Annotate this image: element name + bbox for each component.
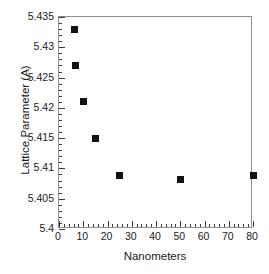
x-axis-minor-tick [243, 224, 244, 227]
x-axis-minor-tick [88, 224, 89, 227]
x-axis-major-tick [253, 221, 254, 227]
y-axis-minor-tick [59, 96, 62, 97]
y-axis-major-tick [59, 47, 65, 48]
x-axis-major-tick [83, 221, 84, 227]
x-axis-minor-tick [166, 224, 167, 227]
x-axis-minor-tick [69, 224, 70, 227]
y-axis-minor-tick [59, 29, 62, 30]
x-axis-minor-tick [171, 224, 172, 227]
y-axis-minor-tick [59, 53, 62, 54]
y-axis-minor-tick [59, 23, 62, 24]
y-axis-minor-tick [59, 144, 62, 145]
x-axis-minor-tick [214, 224, 215, 227]
y-axis-major-tick [59, 168, 65, 169]
x-axis-major-tick [180, 221, 181, 227]
y-axis-minor-tick [59, 217, 62, 218]
data-point-marker [72, 62, 79, 69]
y-axis-minor-tick [59, 35, 62, 36]
x-axis-minor-tick [74, 224, 75, 227]
y-axis-title: Lattice Parameter (A) [19, 40, 31, 200]
y-axis-minor-tick [59, 187, 62, 188]
y-axis-minor-tick [59, 84, 62, 85]
x-axis-minor-tick [219, 224, 220, 227]
plot-area [58, 16, 252, 228]
y-axis-minor-tick [59, 126, 62, 127]
x-axis-minor-tick [122, 224, 123, 227]
y-axis-minor-tick [59, 156, 62, 157]
data-point-marker [71, 26, 78, 33]
y-axis-major-tick [59, 138, 65, 139]
x-axis-minor-tick [127, 224, 128, 227]
x-axis-tick-label: 80 [232, 231, 269, 242]
x-axis-minor-tick [103, 224, 104, 227]
y-axis-minor-tick [59, 211, 62, 212]
data-point-marker [80, 98, 87, 105]
y-axis-minor-tick [59, 150, 62, 151]
x-axis-minor-tick [64, 224, 65, 227]
x-axis-minor-tick [112, 224, 113, 227]
data-point-marker [92, 135, 99, 142]
y-axis-minor-tick [59, 65, 62, 66]
y-axis-major-tick [59, 199, 65, 200]
x-axis-major-tick [59, 221, 60, 227]
chart-figure: 5.45.4055.415.4155.425.4255.435.435 0102… [0, 0, 269, 274]
y-axis-minor-tick [59, 114, 62, 115]
x-axis-minor-tick [185, 224, 186, 227]
x-axis-minor-tick [151, 224, 152, 227]
y-axis-minor-tick [59, 120, 62, 121]
x-axis-minor-tick [137, 224, 138, 227]
x-axis-minor-tick [78, 224, 79, 227]
x-axis-minor-tick [161, 224, 162, 227]
x-axis-major-tick [229, 221, 230, 227]
y-axis-tick-label: 5.435 [0, 11, 54, 22]
x-axis-major-tick [108, 221, 109, 227]
x-axis-major-tick [132, 221, 133, 227]
y-axis-minor-tick [59, 162, 62, 163]
x-axis-minor-tick [238, 224, 239, 227]
x-axis-minor-tick [224, 224, 225, 227]
x-axis-minor-tick [234, 224, 235, 227]
x-axis-minor-tick [190, 224, 191, 227]
y-axis-minor-tick [59, 181, 62, 182]
y-axis-major-tick [59, 17, 65, 18]
y-axis-minor-tick [59, 205, 62, 206]
x-axis-minor-tick [98, 224, 99, 227]
x-axis-minor-tick [146, 224, 147, 227]
x-axis-minor-tick [200, 224, 201, 227]
x-axis-major-tick [156, 221, 157, 227]
x-axis-title: Nanometers [58, 250, 252, 262]
y-axis-minor-tick [59, 72, 62, 73]
y-axis-minor-tick [59, 102, 62, 103]
x-axis-minor-tick [248, 224, 249, 227]
x-axis-minor-tick [175, 224, 176, 227]
y-axis-minor-tick [59, 90, 62, 91]
data-point-marker [177, 176, 184, 183]
x-axis-minor-tick [93, 224, 94, 227]
x-axis-minor-tick [209, 224, 210, 227]
data-point-marker [250, 172, 257, 179]
x-axis-minor-tick [195, 224, 196, 227]
x-axis-minor-tick [117, 224, 118, 227]
x-axis-minor-tick [141, 224, 142, 227]
y-axis-major-tick [59, 78, 65, 79]
y-axis-major-tick [59, 229, 65, 230]
x-axis-major-tick [205, 221, 206, 227]
y-axis-minor-tick [59, 41, 62, 42]
y-axis-minor-tick [59, 132, 62, 133]
y-axis-minor-tick [59, 174, 62, 175]
data-point-marker [116, 172, 123, 179]
y-axis-minor-tick [59, 193, 62, 194]
y-axis-minor-tick [59, 59, 62, 60]
y-axis-major-tick [59, 108, 65, 109]
